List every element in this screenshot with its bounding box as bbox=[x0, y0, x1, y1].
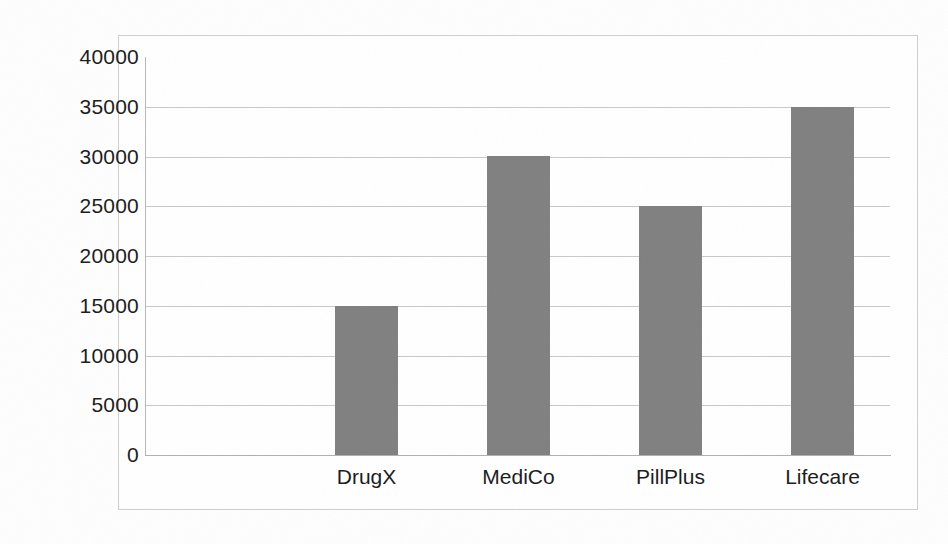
x-axis-tick-label: DrugX bbox=[287, 466, 447, 487]
x-axis-tick-label: MediCo bbox=[439, 466, 599, 487]
x-axis-tick-labels: DrugXMediCoPillPlusLifecare bbox=[0, 0, 948, 544]
x-axis-tick-label: Lifecare bbox=[743, 466, 903, 487]
x-axis-tick-label: PillPlus bbox=[591, 466, 751, 487]
bar-chart-figure: 4000035000300002500020000150001000050000… bbox=[0, 0, 948, 544]
